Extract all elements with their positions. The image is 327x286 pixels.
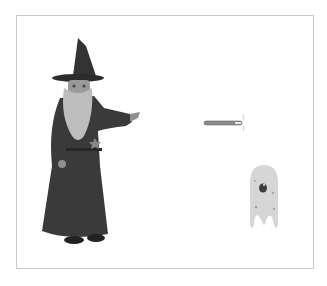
ghost-sprite[interactable] xyxy=(246,163,282,233)
wand-icon xyxy=(203,112,246,134)
wizard-sprite[interactable] xyxy=(38,36,143,246)
wand-sprite[interactable] xyxy=(203,112,246,134)
wizard-icon xyxy=(38,36,143,246)
ghost-icon xyxy=(246,163,282,233)
